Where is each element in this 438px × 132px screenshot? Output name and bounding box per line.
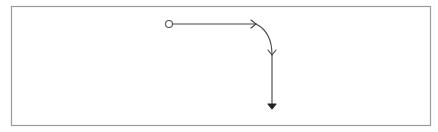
start-node-icon bbox=[166, 21, 173, 28]
diagram-canvas bbox=[0, 0, 438, 132]
